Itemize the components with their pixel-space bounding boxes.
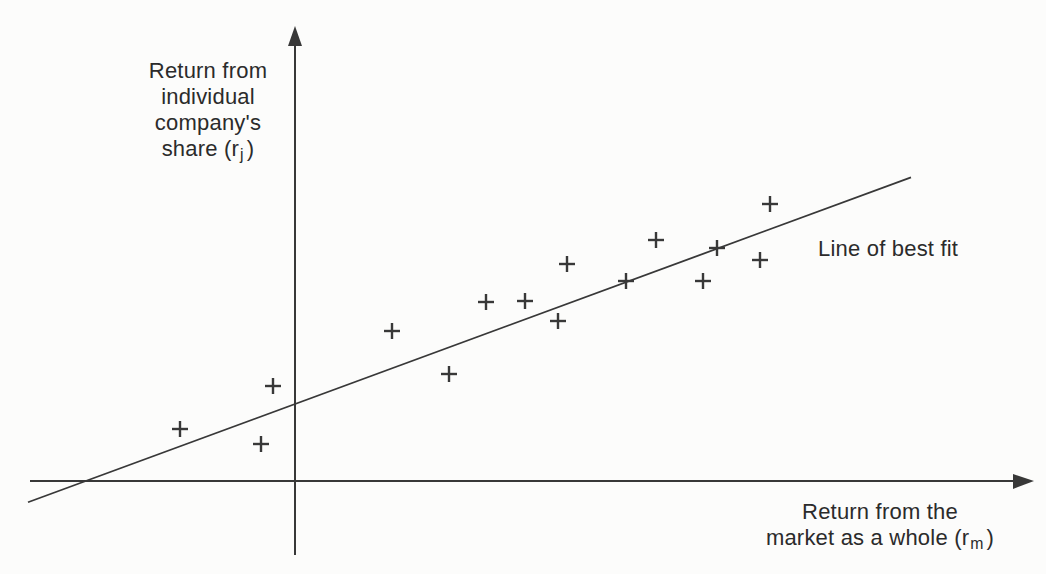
data-point-marker bbox=[752, 252, 768, 268]
x-axis-subscript-m: m bbox=[970, 535, 983, 552]
data-point-marker bbox=[441, 366, 457, 382]
data-point-marker bbox=[695, 273, 711, 289]
y-axis-arrowhead bbox=[288, 26, 302, 46]
y-axis-label-line1: Return from bbox=[118, 58, 298, 84]
y-axis-label-line2: individual bbox=[118, 84, 298, 110]
data-point-marker bbox=[648, 232, 664, 248]
data-point-marker bbox=[559, 256, 575, 272]
data-point-marker bbox=[253, 436, 269, 452]
data-point-marker bbox=[709, 240, 725, 256]
data-point-marker bbox=[550, 313, 566, 329]
x-axis-arrowhead bbox=[1013, 474, 1034, 489]
data-point-marker bbox=[517, 293, 533, 309]
y-axis-subscript-j: j bbox=[240, 146, 244, 163]
data-point-marker bbox=[762, 196, 778, 212]
y-axis-label-line4-text: share (r bbox=[162, 136, 239, 161]
x-axis-label-close-paren: ) bbox=[987, 525, 995, 550]
data-point-marker bbox=[172, 421, 188, 437]
y-axis-label-close-paren: ) bbox=[247, 136, 255, 161]
scatter-plot-figure: Return from individual company's share (… bbox=[0, 0, 1046, 574]
data-point-marker bbox=[265, 378, 281, 394]
y-axis-label-line4: share (rj) bbox=[118, 136, 298, 168]
y-axis-label-line3: company's bbox=[118, 110, 298, 136]
x-axis-label-line1: Return from the bbox=[730, 499, 1030, 525]
x-axis-label-line2: market as a whole (rm) bbox=[730, 525, 1030, 557]
x-axis-label: Return from the market as a whole (rm) bbox=[730, 499, 1030, 557]
best-fit-line bbox=[28, 177, 911, 502]
data-point-marker bbox=[618, 273, 634, 289]
best-fit-line-label: Line of best fit bbox=[818, 236, 958, 262]
x-axis-label-line2-text: market as a whole (r bbox=[766, 525, 969, 550]
data-point-marker bbox=[478, 294, 494, 310]
data-point-marker bbox=[384, 323, 400, 339]
y-axis-label: Return from individual company's share (… bbox=[118, 58, 298, 168]
